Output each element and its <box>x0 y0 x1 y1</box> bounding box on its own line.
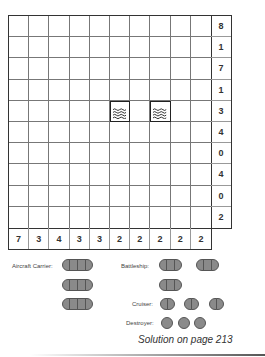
grid-cell[interactable] <box>49 164 69 185</box>
grid-cell[interactable] <box>29 16 49 37</box>
grid-cell[interactable] <box>49 143 69 164</box>
grid-cell[interactable] <box>110 186 130 207</box>
grid-cell[interactable] <box>9 122 29 143</box>
grid-cell[interactable] <box>49 101 69 122</box>
grid-cell[interactable] <box>29 164 49 185</box>
grid-cell[interactable] <box>70 16 90 37</box>
grid-cell[interactable] <box>90 164 110 185</box>
grid-cell[interactable] <box>191 101 211 122</box>
grid-cell[interactable] <box>90 101 110 122</box>
grid-cell[interactable] <box>70 207 90 228</box>
grid-cell[interactable] <box>150 37 170 58</box>
grid-cell[interactable] <box>110 207 130 228</box>
grid-cell[interactable] <box>110 80 130 101</box>
grid-cell[interactable] <box>191 164 211 185</box>
grid-cell[interactable] <box>191 122 211 143</box>
grid-cell[interactable] <box>130 58 150 79</box>
grid-cell[interactable] <box>29 186 49 207</box>
grid-cell[interactable] <box>171 101 191 122</box>
grid-cell[interactable] <box>70 58 90 79</box>
grid-cell[interactable] <box>130 80 150 101</box>
grid-cell[interactable] <box>49 122 69 143</box>
grid-cell[interactable] <box>191 80 211 101</box>
grid-cell[interactable] <box>150 207 170 228</box>
grid-cell[interactable] <box>9 101 29 122</box>
grid-cell[interactable] <box>130 37 150 58</box>
grid-cell[interactable] <box>9 80 29 101</box>
grid-cell[interactable] <box>9 16 29 37</box>
grid-cell[interactable] <box>130 143 150 164</box>
grid-cell[interactable] <box>70 37 90 58</box>
grid-cell[interactable] <box>130 122 150 143</box>
grid-cell[interactable] <box>29 37 49 58</box>
grid-cell[interactable] <box>191 37 211 58</box>
grid-cell[interactable] <box>49 207 69 228</box>
grid-cell[interactable] <box>9 164 29 185</box>
grid-cell[interactable] <box>70 101 90 122</box>
grid-cell[interactable] <box>9 58 29 79</box>
grid-cell[interactable] <box>90 207 110 228</box>
grid-cell[interactable] <box>150 58 170 79</box>
grid-cell[interactable] <box>70 164 90 185</box>
grid-cell[interactable] <box>29 143 49 164</box>
grid-cell[interactable] <box>90 122 110 143</box>
grid-cell[interactable] <box>171 58 191 79</box>
grid-cell[interactable] <box>171 37 191 58</box>
grid-cell[interactable] <box>171 207 191 228</box>
grid-cell[interactable] <box>90 16 110 37</box>
grid-cell[interactable] <box>110 16 130 37</box>
grid-cell[interactable] <box>9 207 29 228</box>
grid-cell[interactable] <box>9 37 29 58</box>
grid-cell[interactable] <box>29 58 49 79</box>
grid-cell[interactable] <box>171 186 191 207</box>
grid-cell-water[interactable] <box>150 101 170 122</box>
grid-cell[interactable] <box>29 101 49 122</box>
grid-cell[interactable] <box>49 80 69 101</box>
grid-cell[interactable] <box>70 143 90 164</box>
grid-cell[interactable] <box>171 164 191 185</box>
grid-cell[interactable] <box>150 16 170 37</box>
grid-cell[interactable] <box>171 122 191 143</box>
grid-cell[interactable] <box>110 122 130 143</box>
grid-cell[interactable] <box>171 80 191 101</box>
grid-cell[interactable] <box>191 58 211 79</box>
grid-cell[interactable] <box>90 186 110 207</box>
grid-cell[interactable] <box>49 37 69 58</box>
grid-cell[interactable] <box>191 186 211 207</box>
grid-cell[interactable] <box>191 143 211 164</box>
grid-cell[interactable] <box>171 143 191 164</box>
grid-cell[interactable] <box>110 58 130 79</box>
grid-cell[interactable] <box>70 186 90 207</box>
grid-cell[interactable] <box>9 143 29 164</box>
grid-cell[interactable] <box>90 58 110 79</box>
grid-cell[interactable] <box>110 37 130 58</box>
grid-cell[interactable] <box>150 122 170 143</box>
grid-cell[interactable] <box>49 58 69 79</box>
grid-cell[interactable] <box>49 186 69 207</box>
grid-cell[interactable] <box>130 101 150 122</box>
grid-cell[interactable] <box>110 164 130 185</box>
grid-cell[interactable] <box>130 207 150 228</box>
grid-cell[interactable] <box>29 207 49 228</box>
grid-cell[interactable] <box>29 80 49 101</box>
grid-cell[interactable] <box>90 80 110 101</box>
grid-cell[interactable] <box>150 80 170 101</box>
grid-cell[interactable] <box>90 37 110 58</box>
grid-cell[interactable] <box>49 16 69 37</box>
grid-cell[interactable] <box>191 207 211 228</box>
grid-cell[interactable] <box>110 143 130 164</box>
grid-cell[interactable] <box>70 122 90 143</box>
grid-cell[interactable] <box>191 16 211 37</box>
grid-cell[interactable] <box>130 16 150 37</box>
grid-cell[interactable] <box>29 122 49 143</box>
grid-cell[interactable] <box>171 16 191 37</box>
grid-cell[interactable] <box>9 186 29 207</box>
grid-cell-water[interactable] <box>110 101 130 122</box>
grid-cell[interactable] <box>70 80 90 101</box>
grid-cell[interactable] <box>150 164 170 185</box>
grid-cell[interactable] <box>150 186 170 207</box>
grid-cell[interactable] <box>130 186 150 207</box>
grid-cell[interactable] <box>150 143 170 164</box>
grid-cell[interactable] <box>90 143 110 164</box>
grid-cell[interactable] <box>130 164 150 185</box>
